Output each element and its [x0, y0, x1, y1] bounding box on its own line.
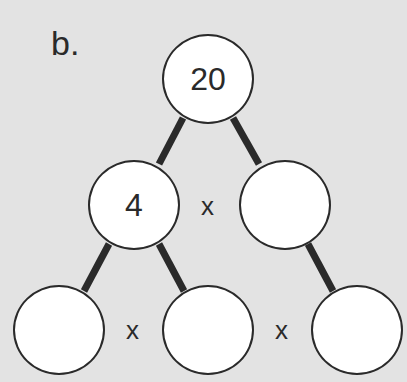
factor-node-left: 4	[88, 160, 180, 250]
root-node: 20	[162, 34, 254, 124]
multiply-sign-level2-left: x	[126, 317, 139, 343]
leaf-node-left[interactable]	[13, 285, 105, 375]
leaf-node-right[interactable]	[311, 285, 403, 375]
multiply-sign-level1: x	[201, 193, 214, 219]
edge-left-midleaf	[159, 244, 184, 291]
problem-label: b.	[51, 26, 79, 60]
edge-right-rightleaf	[308, 244, 333, 291]
edge-root-left	[159, 118, 183, 164]
edge-root-right	[233, 118, 259, 164]
leaf-node-middle[interactable]	[162, 285, 254, 375]
multiply-sign-level2-right: x	[275, 317, 288, 343]
factor-node-right[interactable]	[239, 160, 331, 250]
edge-left-leftleaf	[84, 244, 109, 291]
